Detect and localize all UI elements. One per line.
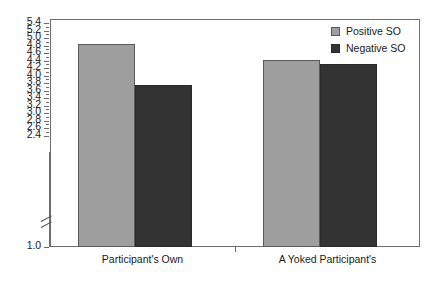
- y-axis-tick-mark: [44, 53, 49, 54]
- y-axis-minor-tick-mark: [46, 27, 49, 28]
- legend-item-negative-so: Negative SO: [331, 41, 406, 56]
- y-axis-tick-mark: [44, 61, 49, 62]
- y-axis-tick-label: 2.4: [27, 129, 41, 140]
- y-axis-minor-tick-mark: [46, 102, 49, 103]
- y-axis-tick-mark: [44, 83, 49, 84]
- y-axis-minor-tick-mark: [46, 94, 49, 95]
- x-axis-category-label: A Yoked Participant's: [235, 253, 420, 265]
- y-axis-tick-mark: [44, 76, 49, 77]
- y-axis-tick-mark: [44, 68, 49, 69]
- bar-negative-so: [320, 64, 377, 247]
- y-axis-minor-tick-mark: [46, 57, 49, 58]
- y-axis-tick-mark: [44, 31, 49, 32]
- bar-positive-so: [78, 44, 135, 247]
- bar-negative-so: [135, 85, 192, 247]
- legend-item-positive-so: Positive SO: [331, 24, 406, 39]
- y-axis-tick-mark: [44, 121, 49, 122]
- y-axis-lower-stub: [49, 152, 50, 248]
- y-axis-minor-tick-mark: [46, 87, 49, 88]
- y-axis-minor-tick-mark: [46, 42, 49, 43]
- y-axis-minor-tick-mark: [46, 117, 49, 118]
- x-axis-group-divider: [235, 247, 236, 252]
- y-axis-tick-mark: [44, 128, 49, 129]
- y-axis-tick-label: 1.0: [27, 240, 41, 251]
- y-axis-tick-mark: [44, 136, 49, 137]
- y-axis-minor-tick-mark: [46, 124, 49, 125]
- y-axis-minor-tick-mark: [46, 72, 49, 73]
- y-axis-minor-tick-mark: [46, 79, 49, 80]
- legend-label-positive-so: Positive SO: [346, 26, 401, 37]
- y-axis-minor-tick-mark: [46, 64, 49, 65]
- y-axis-minor-tick-mark: [46, 132, 49, 133]
- bar-positive-so: [263, 60, 320, 247]
- legend: Positive SO Negative SO: [331, 24, 406, 58]
- y-axis-minor-tick-mark: [46, 34, 49, 35]
- x-axis-category-label: Participant's Own: [50, 253, 235, 265]
- y-axis-tick-mark: [44, 247, 49, 248]
- y-axis-tick-mark: [44, 38, 49, 39]
- legend-label-negative-so: Negative SO: [346, 43, 406, 54]
- legend-swatch-negative-so-icon: [331, 44, 340, 53]
- y-axis-tick-mark: [44, 113, 49, 114]
- y-axis-break-icon: [41, 216, 55, 232]
- y-axis-minor-tick-mark: [46, 109, 49, 110]
- y-axis-tick-mark: [44, 106, 49, 107]
- bar-chart: 5.45.25.04.84.64.44.24.03.83.63.43.23.02…: [0, 0, 433, 282]
- legend-swatch-positive-so-icon: [331, 27, 340, 36]
- y-axis-minor-tick-mark: [46, 49, 49, 50]
- y-axis-tick-mark: [44, 98, 49, 99]
- y-axis-tick-mark: [44, 23, 49, 24]
- y-axis: 5.45.25.04.84.64.44.24.03.83.63.43.23.02…: [0, 0, 50, 282]
- y-axis-tick-mark: [44, 91, 49, 92]
- y-axis-tick-mark: [44, 46, 49, 47]
